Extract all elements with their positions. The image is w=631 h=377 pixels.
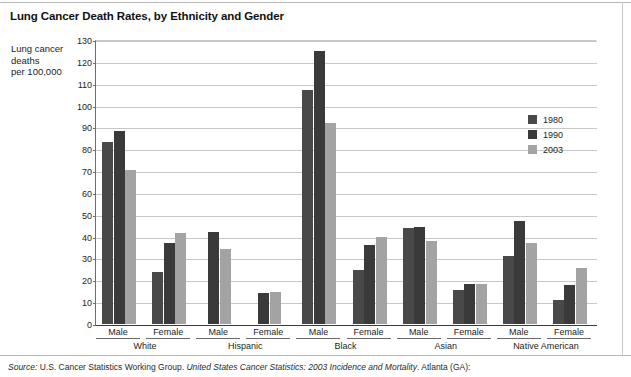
gender-underline bbox=[497, 338, 541, 339]
legend-label: 2003 bbox=[543, 145, 563, 155]
bar-native-american-female-1990 bbox=[564, 285, 575, 324]
gender-underline bbox=[547, 338, 591, 339]
bar-asian-male-2003 bbox=[426, 241, 437, 324]
bar-native-american-male-1990 bbox=[514, 221, 525, 324]
legend-label: 1990 bbox=[543, 130, 563, 140]
bar-hispanic-male-2003 bbox=[220, 249, 231, 324]
bar-black-male-2003 bbox=[325, 123, 336, 324]
y-tick-mark bbox=[93, 41, 96, 42]
source-title: United States Cancer Statistics: 2003 In… bbox=[186, 362, 417, 372]
gridline bbox=[96, 172, 597, 173]
ethnicity-label-native-american: Native American bbox=[486, 341, 606, 351]
y-tick-mark bbox=[93, 63, 96, 64]
gridline bbox=[96, 41, 597, 42]
bar-black-female-1980 bbox=[353, 270, 364, 324]
y-tick-mark bbox=[93, 303, 96, 304]
y-tick-label: 100 bbox=[77, 102, 92, 112]
y-tick-mark bbox=[93, 216, 96, 217]
y-tick-label: 50 bbox=[82, 211, 92, 221]
bar-asian-female-1980 bbox=[453, 290, 464, 324]
gridline bbox=[96, 216, 597, 217]
y-tick-mark bbox=[93, 259, 96, 260]
legend-swatch-icon bbox=[528, 145, 537, 154]
gridline bbox=[96, 63, 597, 64]
legend-item-2003: 2003 bbox=[528, 143, 563, 156]
gender-underline bbox=[196, 338, 240, 339]
legend-item-1980: 1980 bbox=[528, 113, 563, 126]
gridline bbox=[96, 325, 597, 326]
bar-white-female-2003 bbox=[175, 233, 186, 324]
bar-asian-male-1990 bbox=[414, 227, 425, 324]
bar-hispanic-female-2003 bbox=[270, 292, 281, 324]
y-tick-label: 130 bbox=[77, 36, 92, 46]
y-tick-label: 110 bbox=[78, 80, 92, 90]
legend-label: 1980 bbox=[543, 115, 563, 125]
gender-underline bbox=[347, 338, 391, 339]
legend: 198019902003 bbox=[528, 113, 563, 158]
gender-underline bbox=[296, 338, 340, 339]
bar-hispanic-female-1990 bbox=[258, 293, 269, 324]
y-tick-mark bbox=[93, 194, 96, 195]
bar-native-american-male-2003 bbox=[526, 243, 537, 324]
y-tick-label: 120 bbox=[77, 58, 92, 68]
gender-underline bbox=[146, 338, 190, 339]
bar-white-female-1990 bbox=[164, 243, 175, 324]
gender-underline bbox=[246, 338, 290, 339]
bar-black-female-1990 bbox=[364, 245, 375, 324]
bar-white-male-1990 bbox=[114, 131, 125, 324]
y-tick-label: 30 bbox=[82, 254, 92, 264]
y-tick-mark bbox=[93, 107, 96, 108]
legend-item-1990: 1990 bbox=[528, 128, 563, 141]
y-tick-mark bbox=[93, 281, 96, 282]
gridline bbox=[96, 194, 597, 195]
gender-underline bbox=[397, 338, 441, 339]
y-tick-mark bbox=[93, 325, 96, 326]
y-tick-label: 80 bbox=[82, 145, 92, 155]
bar-white-male-2003 bbox=[125, 170, 136, 324]
bar-asian-female-1990 bbox=[464, 284, 475, 324]
bar-asian-female-2003 bbox=[476, 284, 487, 324]
gridline bbox=[96, 128, 597, 129]
plot-area: 0102030405060708090100110120130 bbox=[95, 40, 596, 325]
bar-black-female-2003 bbox=[376, 237, 387, 324]
source-part1: U.S. Cancer Statistics Working Group. bbox=[37, 362, 186, 372]
gender-underline bbox=[96, 338, 140, 339]
y-tick-mark bbox=[93, 85, 96, 86]
y-tick-label: 70 bbox=[82, 167, 92, 177]
gridline bbox=[96, 107, 597, 108]
bar-asian-male-1980 bbox=[403, 228, 414, 324]
top-divider bbox=[0, 2, 631, 3]
bar-native-american-female-1980 bbox=[553, 300, 564, 324]
bar-white-female-1980 bbox=[152, 272, 163, 324]
gridline bbox=[96, 150, 597, 151]
source-note: Source: U.S. Cancer Statistics Working G… bbox=[8, 362, 470, 372]
y-tick-mark bbox=[93, 150, 96, 151]
bar-native-american-female-2003 bbox=[576, 268, 587, 324]
y-tick-mark bbox=[93, 128, 96, 129]
figure-page: Lung Cancer Death Rates, by Ethnicity an… bbox=[0, 0, 631, 377]
y-tick-label: 10 bbox=[82, 298, 92, 308]
y-tick-mark bbox=[93, 238, 96, 239]
y-tick-label: 60 bbox=[82, 189, 92, 199]
bar-black-male-1990 bbox=[314, 51, 325, 324]
y-tick-label: 40 bbox=[82, 233, 92, 243]
bar-black-male-1980 bbox=[302, 90, 313, 324]
legend-swatch-icon bbox=[528, 115, 537, 124]
right-border bbox=[622, 2, 623, 355]
bar-white-male-1980 bbox=[102, 142, 113, 324]
gridline bbox=[96, 85, 597, 86]
legend-swatch-icon bbox=[528, 130, 537, 139]
bar-hispanic-male-1990 bbox=[208, 232, 219, 324]
gender-underline bbox=[447, 338, 491, 339]
source-label: Source: bbox=[8, 362, 37, 372]
y-tick-label: 20 bbox=[82, 276, 92, 286]
y-tick-label: 90 bbox=[82, 123, 92, 133]
bottom-divider bbox=[0, 355, 631, 356]
source-part2: . Atlanta (GA): bbox=[417, 362, 470, 372]
y-tick-mark bbox=[93, 172, 96, 173]
bar-native-american-male-1980 bbox=[503, 256, 514, 324]
chart-title: Lung Cancer Death Rates, by Ethnicity an… bbox=[10, 10, 284, 22]
gender-label-native-american-female: Female bbox=[539, 327, 599, 337]
